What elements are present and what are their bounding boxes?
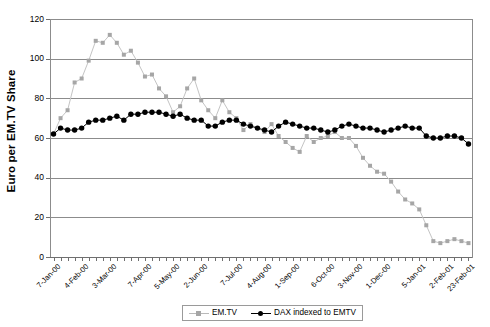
data-point (284, 140, 288, 144)
data-point (72, 127, 77, 132)
data-point (319, 136, 323, 140)
data-point (389, 180, 393, 184)
data-point (452, 237, 456, 241)
data-point (466, 241, 470, 245)
plot-area (0, 0, 490, 327)
data-point (94, 39, 98, 43)
data-point (248, 123, 253, 128)
data-point (86, 119, 91, 124)
data-point (178, 104, 182, 108)
chart-container: Euro per EM.TV Share 020406080100120 7-J… (0, 0, 490, 327)
data-point (163, 112, 168, 117)
data-point (368, 164, 372, 168)
data-point (206, 108, 210, 112)
data-point (93, 117, 98, 122)
data-point (466, 141, 471, 146)
data-point (445, 133, 450, 138)
data-point (121, 117, 126, 122)
data-point (213, 116, 217, 120)
data-point (269, 129, 274, 134)
data-point (101, 41, 105, 45)
data-point (220, 119, 225, 124)
data-point (361, 156, 365, 160)
data-point (142, 110, 147, 115)
legend-marker-dax-icon (251, 309, 271, 318)
data-point (241, 121, 246, 126)
data-point (136, 61, 140, 65)
data-point (445, 239, 449, 243)
data-point (424, 223, 428, 227)
data-point (87, 59, 91, 63)
data-point (191, 117, 196, 122)
data-point (227, 117, 232, 122)
data-point (431, 239, 435, 243)
data-point (298, 150, 302, 154)
data-point (156, 110, 161, 115)
legend-item-emtv: EM.TV (189, 308, 237, 318)
data-point (58, 125, 63, 130)
data-point (367, 125, 372, 130)
data-point (199, 117, 204, 122)
data-point (80, 77, 84, 81)
data-point (339, 123, 344, 128)
data-point (164, 94, 168, 98)
data-point (59, 116, 63, 120)
data-point (360, 125, 365, 130)
data-point (388, 127, 393, 132)
data-point (135, 112, 140, 117)
data-point (234, 117, 239, 122)
legend-item-dax: DAX indexed to EMTV (251, 308, 356, 318)
data-point (396, 190, 400, 194)
data-point (220, 98, 224, 102)
chart-legend: EM.TV DAX indexed to EMTV (182, 305, 363, 321)
data-point (438, 135, 443, 140)
data-point (270, 122, 274, 126)
data-point (213, 123, 218, 128)
data-point (255, 125, 260, 130)
data-point (206, 123, 211, 128)
data-point (297, 123, 302, 128)
data-point (452, 133, 457, 138)
data-point (79, 125, 84, 130)
legend-label-dax: DAX indexed to EMTV (274, 308, 356, 318)
data-point (417, 207, 421, 211)
data-point (312, 140, 316, 144)
data-point (304, 125, 309, 130)
data-point (170, 113, 175, 118)
data-point (403, 197, 407, 201)
data-point (66, 108, 70, 112)
data-point (227, 110, 231, 114)
data-point (108, 33, 112, 37)
data-point (318, 127, 323, 132)
data-point (424, 133, 429, 138)
data-point (114, 113, 119, 118)
data-point (459, 239, 463, 243)
data-point (395, 125, 400, 130)
data-point (381, 129, 386, 134)
data-point (374, 127, 379, 132)
data-point (122, 53, 126, 57)
legend-label-emtv: EM.TV (212, 308, 237, 318)
data-point (184, 115, 189, 120)
data-point (128, 112, 133, 117)
data-point (431, 135, 436, 140)
data-point (277, 134, 281, 138)
data-point (241, 128, 245, 132)
data-point (410, 201, 414, 205)
data-point (65, 127, 70, 132)
data-point (192, 77, 196, 81)
data-point (438, 241, 442, 245)
data-point (346, 121, 351, 126)
data-point (347, 136, 351, 140)
data-point (143, 75, 147, 79)
data-point (115, 41, 119, 45)
data-point (353, 123, 358, 128)
data-point (185, 86, 189, 90)
data-point (157, 86, 161, 90)
data-point (199, 98, 203, 102)
data-point (100, 117, 105, 122)
data-point (417, 125, 422, 130)
data-point (73, 80, 77, 84)
data-point (262, 127, 267, 132)
data-point (177, 112, 182, 117)
